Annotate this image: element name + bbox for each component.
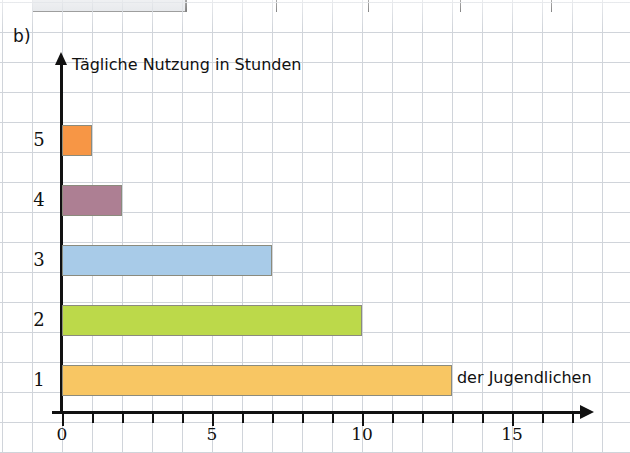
figure-label: b)	[13, 26, 31, 46]
x-tick-4	[182, 414, 184, 423]
y-category-label-2: 2	[26, 309, 52, 330]
bar-category-1	[62, 365, 452, 396]
x-tick-9	[332, 414, 334, 423]
y-axis-line	[60, 62, 63, 414]
x-tick-label-0: 0	[42, 424, 82, 444]
y-category-label-4: 4	[26, 189, 52, 210]
x-tick-12	[422, 414, 424, 423]
bar-category-3	[62, 245, 272, 276]
y-axis-title: Tägliche Nutzung in Stunden	[72, 55, 301, 74]
x-tick-3	[152, 414, 154, 423]
x-tick-11	[392, 414, 394, 423]
x-tick-2	[122, 414, 124, 423]
y-category-label-3: 3	[26, 249, 52, 270]
x-tick-6	[242, 414, 244, 423]
x-axis-arrow	[580, 405, 594, 419]
x-tick-label-15: 15	[492, 424, 532, 444]
x-tick-16	[542, 414, 544, 423]
x-tick-14	[482, 414, 484, 423]
worksheet-figure-b: b) Tägliche Nutzung in Stunden Anzahl de…	[0, 0, 630, 453]
x-tick-8	[302, 414, 304, 423]
y-axis-arrow	[55, 52, 67, 65]
bar-category-2	[62, 305, 362, 336]
bar-category-5	[62, 125, 92, 156]
x-tick-label-10: 10	[342, 424, 382, 444]
x-tick-7	[272, 414, 274, 423]
y-category-label-1: 1	[26, 369, 52, 390]
bar-category-4	[62, 185, 122, 216]
x-tick-13	[452, 414, 454, 423]
y-category-label-5: 5	[26, 129, 52, 150]
x-tick-1	[92, 414, 94, 423]
x-tick-17	[572, 414, 574, 423]
x-tick-label-5: 5	[192, 424, 232, 444]
x-axis-line	[52, 411, 584, 414]
